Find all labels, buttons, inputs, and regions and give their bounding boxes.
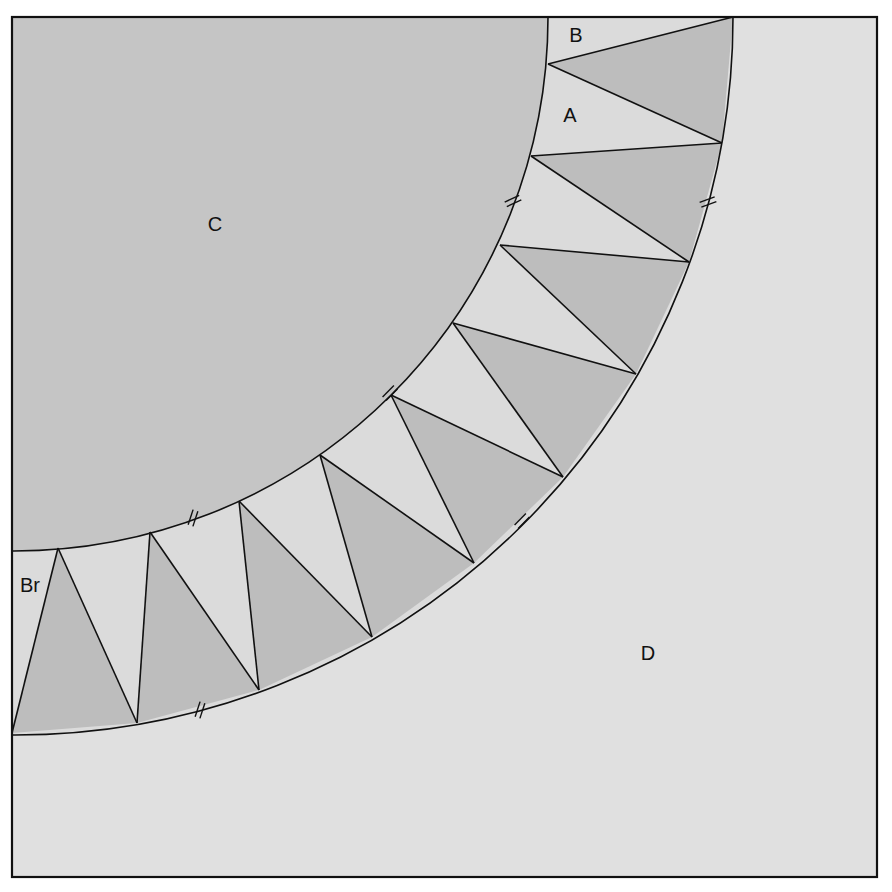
label-br: Br xyxy=(20,574,40,596)
quilt-block-diagram: B A C D Br xyxy=(0,0,892,892)
label-b: B xyxy=(569,24,582,46)
label-d: D xyxy=(641,642,655,664)
label-a: A xyxy=(563,104,577,126)
label-c: C xyxy=(208,213,222,235)
